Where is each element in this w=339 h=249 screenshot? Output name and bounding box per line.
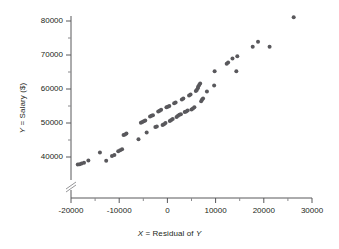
x-axis-title-text: X = Residual of Y bbox=[138, 229, 202, 238]
data-point bbox=[213, 69, 217, 73]
data-point bbox=[179, 112, 183, 116]
data-point bbox=[186, 108, 190, 112]
y-axis-tick-label: 40000 bbox=[19, 152, 63, 161]
data-point bbox=[167, 104, 171, 108]
data-point bbox=[235, 54, 239, 58]
data-point bbox=[163, 121, 167, 125]
data-point bbox=[189, 92, 193, 96]
data-point bbox=[171, 117, 175, 121]
data-point bbox=[181, 97, 185, 101]
data-point bbox=[82, 161, 86, 165]
x-axis-tick-label: 10000 bbox=[194, 206, 238, 215]
x-axis-tick-label: 30000 bbox=[290, 206, 334, 215]
data-point bbox=[226, 60, 230, 64]
y-axis-ticks bbox=[66, 21, 71, 157]
x-axis-ticks bbox=[71, 198, 312, 203]
data-point bbox=[205, 89, 209, 93]
data-point bbox=[159, 108, 163, 112]
data-point bbox=[192, 105, 196, 109]
x-axis-title: X = Residual of Y bbox=[0, 229, 339, 238]
data-point bbox=[143, 119, 147, 123]
data-points-layer bbox=[76, 15, 296, 166]
data-point bbox=[98, 151, 102, 155]
data-point bbox=[124, 132, 128, 136]
x-axis-tick-label: -20000 bbox=[49, 206, 93, 215]
y-axis-title: Y = Salary ($) bbox=[18, 83, 27, 134]
scatter-plot-figure: 4000050000600007000080000 -20000-1000001… bbox=[0, 0, 339, 249]
data-point bbox=[120, 147, 124, 151]
data-point bbox=[292, 15, 296, 19]
data-point bbox=[201, 97, 205, 101]
y-axis-title-wrapper: Y = Salary ($) bbox=[11, 18, 25, 198]
data-point bbox=[155, 124, 159, 128]
x-axis-tick-label: 0 bbox=[145, 206, 189, 215]
y-axis-tick-label: 70000 bbox=[19, 50, 63, 59]
data-point bbox=[230, 56, 234, 60]
data-point bbox=[198, 82, 202, 86]
data-point bbox=[174, 101, 178, 105]
data-point bbox=[112, 153, 116, 157]
data-point bbox=[136, 137, 140, 141]
data-point bbox=[234, 69, 238, 73]
y-axis-tick-label: 80000 bbox=[19, 16, 63, 25]
data-point bbox=[256, 40, 260, 44]
data-point bbox=[212, 84, 216, 88]
data-point bbox=[151, 113, 155, 117]
data-point bbox=[86, 158, 90, 162]
data-point bbox=[268, 45, 272, 49]
data-point bbox=[251, 45, 255, 49]
x-axis-tick-label: -10000 bbox=[97, 206, 141, 215]
data-point bbox=[104, 159, 108, 163]
x-axis-tick-label: 20000 bbox=[242, 206, 286, 215]
data-point bbox=[145, 131, 149, 135]
